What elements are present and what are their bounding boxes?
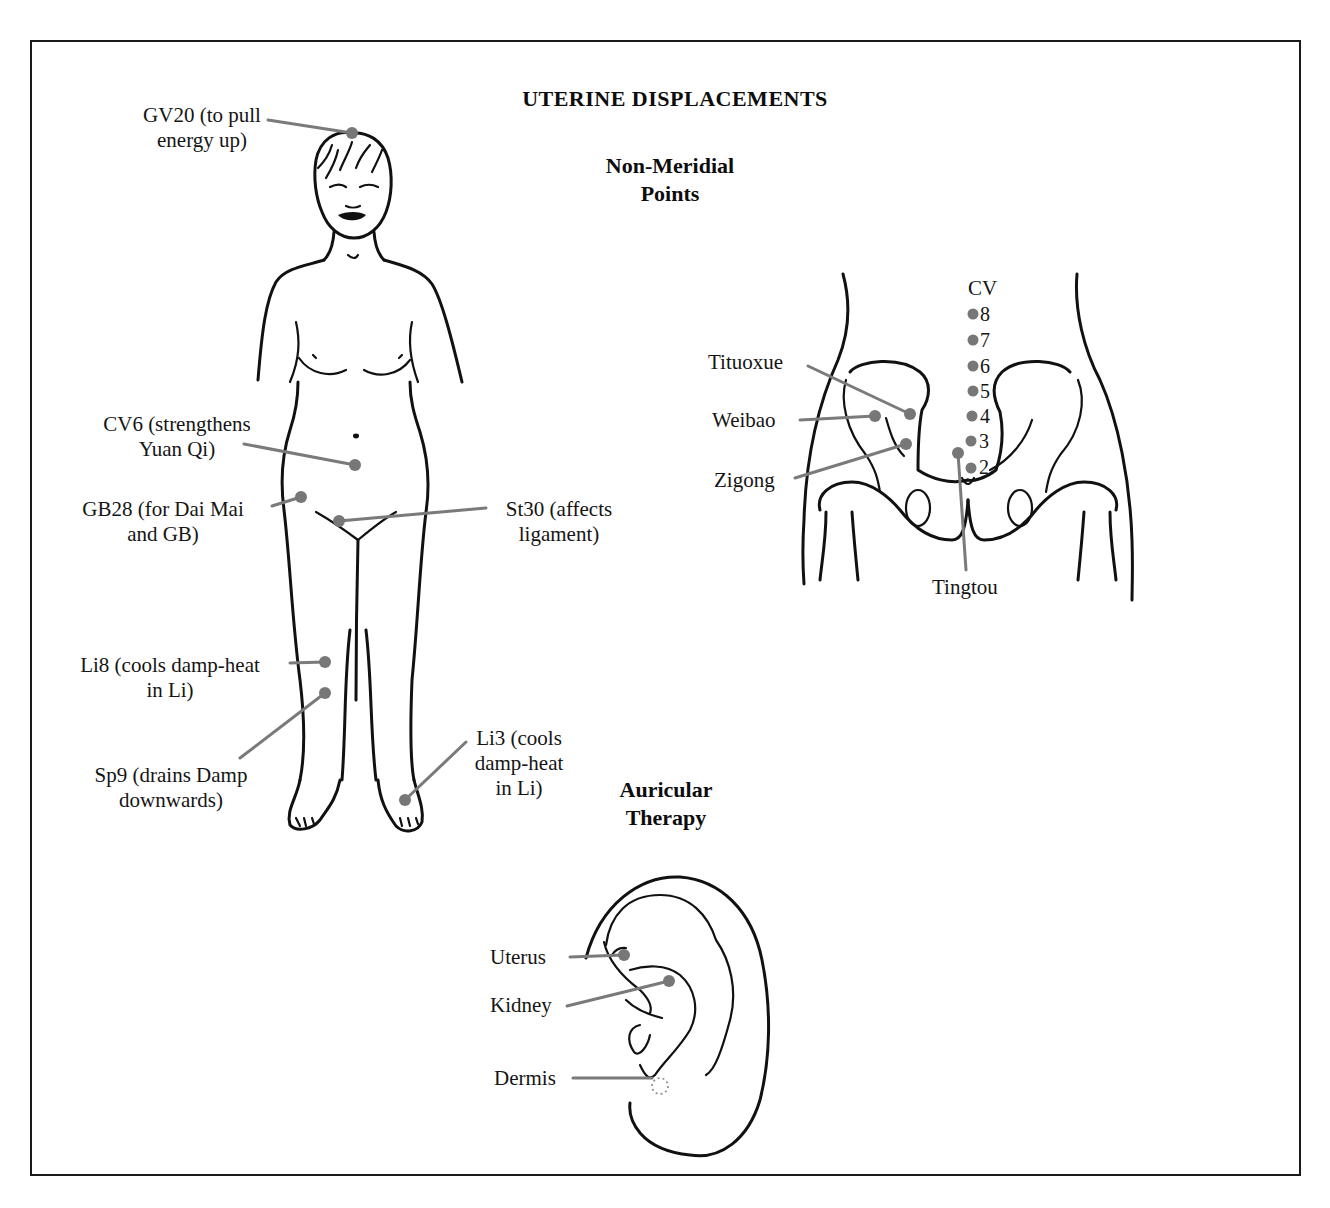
point-li8[interactable] — [319, 656, 331, 668]
section-heading-line: Non-Meridial — [560, 152, 780, 180]
body-figure — [258, 132, 462, 830]
point-tingtou[interactable] — [952, 447, 964, 459]
label-st30: St30 (affects ligament) — [484, 497, 634, 547]
point-cv2[interactable] — [966, 463, 977, 474]
point-weibao[interactable] — [869, 410, 881, 422]
point-cv8[interactable] — [968, 309, 979, 320]
point-uterus[interactable] — [618, 949, 630, 961]
label-cv6-pelvis: 6 — [980, 355, 990, 377]
ear-figure — [586, 877, 769, 1156]
point-cv5[interactable] — [968, 386, 979, 397]
label-line: Yuan Qi) — [74, 437, 280, 462]
label-dermis: Dermis — [494, 1066, 556, 1091]
label-li3: Li3 (cools damp-heat in Li) — [454, 726, 584, 801]
section-heading-non-meridial: Non-Meridial Points — [560, 152, 780, 208]
label-tituoxue: Tituoxue — [708, 350, 783, 375]
point-gv20[interactable] — [346, 127, 358, 139]
point-kidney[interactable] — [663, 975, 675, 987]
label-gv20: GV20 (to pull energy up) — [112, 103, 292, 153]
point-sp9[interactable] — [319, 687, 331, 699]
label-line: St30 (affects — [484, 497, 634, 522]
label-line: energy up) — [112, 128, 292, 153]
label-line: in Li) — [454, 776, 584, 801]
label-line: downwards) — [66, 788, 276, 813]
point-cv4[interactable] — [967, 411, 978, 422]
section-heading-line: Points — [560, 180, 780, 208]
label-cv3: 3 — [979, 430, 989, 452]
label-line: GB28 (for Dai Mai — [52, 497, 274, 522]
label-cv6: CV6 (strengthens Yuan Qi) — [74, 412, 280, 462]
label-line: Sp9 (drains Damp — [66, 763, 276, 788]
label-line: ligament) — [484, 522, 634, 547]
section-heading-line: Auricular — [566, 776, 766, 804]
label-tingtou: Tingtou — [932, 575, 998, 600]
label-line: GV20 (to pull — [112, 103, 292, 128]
label-gb28: GB28 (for Dai Mai and GB) — [52, 497, 274, 547]
label-line: CV6 (strengthens — [74, 412, 280, 437]
label-kidney: Kidney — [490, 993, 552, 1018]
label-uterus: Uterus — [490, 945, 546, 970]
label-line: damp-heat — [454, 751, 584, 776]
label-cv-meridian: CV — [968, 276, 997, 301]
section-heading-line: Therapy — [566, 804, 766, 832]
label-cv8: 8 — [980, 303, 990, 325]
label-cv2: 2 — [979, 456, 989, 478]
label-cv5: 5 — [980, 380, 990, 402]
label-cv7: 7 — [980, 329, 990, 351]
diagram-title: UTERINE DISPLACEMENTS — [480, 86, 870, 112]
point-cv6[interactable] — [349, 459, 361, 471]
point-li3[interactable] — [399, 794, 411, 806]
label-line: Li3 (cools — [454, 726, 584, 751]
point-gb28[interactable] — [295, 491, 307, 503]
label-zigong: Zigong — [714, 468, 775, 493]
point-st30[interactable] — [333, 515, 345, 527]
point-tituoxue[interactable] — [904, 408, 916, 420]
label-li8: Li8 (cools damp-heat in Li) — [52, 653, 288, 703]
point-cv3[interactable] — [966, 436, 977, 447]
point-cv7[interactable] — [968, 335, 979, 346]
point-cv6-pelvis[interactable] — [968, 361, 979, 372]
label-line: in Li) — [52, 678, 288, 703]
label-cv4: 4 — [980, 405, 990, 427]
point-zigong[interactable] — [900, 438, 912, 450]
label-weibao: Weibao — [712, 408, 776, 433]
section-heading-auricular: Auricular Therapy — [566, 776, 766, 832]
label-line: Li8 (cools damp-heat — [52, 653, 288, 678]
label-sp9: Sp9 (drains Damp downwards) — [66, 763, 276, 813]
label-line: and GB) — [52, 522, 274, 547]
